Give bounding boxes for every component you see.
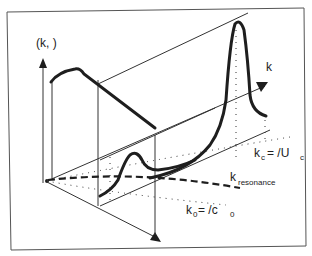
slice-plane-front [52, 80, 98, 206]
k-axis-arrow [47, 82, 268, 181]
svg-text:c: c [261, 153, 265, 162]
k-resonance-label: k resonance [230, 170, 276, 187]
mid-spectrum-curve [100, 153, 195, 196]
k0-label: k 0 = /c 0 [186, 203, 235, 219]
svg-text:k: k [254, 146, 261, 160]
k-axis-label: k [266, 60, 273, 74]
high-frequency-spectrum-curve [150, 22, 266, 178]
svg-text:k: k [186, 203, 193, 217]
spectrum-diagram: (k, ) k k c = /U c k resonance k 0 = /c … [0, 0, 312, 256]
diagram-canvas: (k, ) k k c = /U c k resonance k 0 = /c … [0, 0, 312, 256]
svg-text:resonance: resonance [238, 178, 276, 187]
low-frequency-spectrum-curve [51, 69, 155, 128]
omega-axis-arrow [47, 182, 161, 242]
vertical-axis-arrow [39, 58, 47, 183]
svg-text:k: k [230, 170, 237, 184]
svg-text:0: 0 [230, 210, 235, 219]
svg-text:c: c [300, 153, 304, 162]
slice-plane-mid [100, 108, 270, 235]
svg-text:= /U: = /U [267, 146, 289, 160]
vertical-axis-label: (k, ) [36, 36, 57, 50]
svg-text:= /c: = /c [198, 203, 218, 217]
upper-ridge-line [98, 13, 248, 84]
kc-label: k c = /U c [254, 146, 304, 162]
acoustic-line-k0 [47, 181, 226, 205]
